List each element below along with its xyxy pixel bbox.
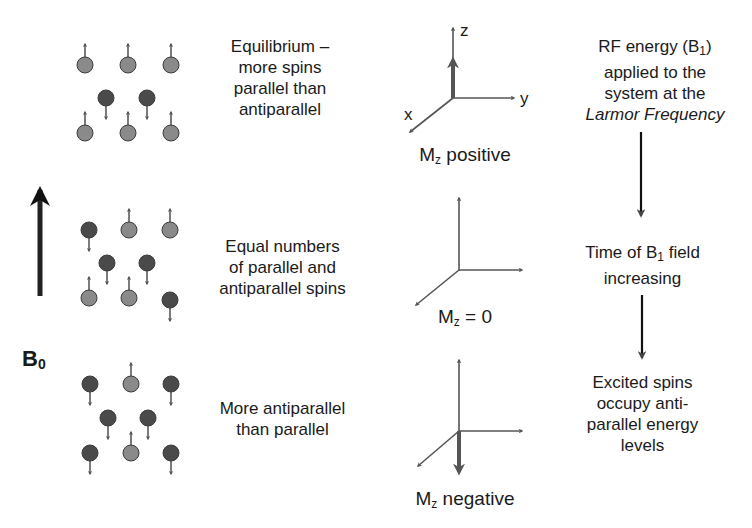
mz-zero-label: Mz = 0	[395, 306, 535, 333]
parallel-spin-icon	[123, 363, 139, 392]
antiparallel-spin-icon	[82, 376, 98, 405]
parallel-spin-icon	[163, 44, 179, 73]
parallel-spin-icon	[120, 44, 136, 73]
antiparallel-spin-icon	[139, 255, 155, 284]
antiparallel-spin-icon	[139, 90, 155, 119]
parallel-spin-icon	[77, 112, 93, 141]
antiparallel-spin-icon	[100, 410, 116, 439]
row1-description: Equilibrium –more spinsparallel thananti…	[205, 36, 355, 120]
parallel-spin-icon	[121, 277, 137, 306]
axis-x-label: x	[404, 104, 413, 125]
spins-layer	[77, 44, 179, 474]
axis-y-label: y	[520, 88, 529, 109]
axes-mz-negative	[418, 360, 522, 472]
process-step-rf-energy: RF energy (B1) applied to the system at …	[560, 36, 750, 125]
parallel-spin-icon	[163, 112, 179, 141]
antiparallel-spin-icon	[81, 222, 97, 251]
axes-mz-positive	[410, 28, 514, 132]
antiparallel-spin-icon	[82, 445, 98, 474]
row2-description: Equal numbersof parallel andantiparallel…	[195, 236, 370, 299]
antiparallel-spin-icon	[162, 292, 178, 321]
process-step-excited: Excited spins occupy anti- parallel ener…	[560, 372, 725, 456]
antiparallel-spin-icon	[140, 410, 156, 439]
antiparallel-spin-icon	[99, 255, 115, 284]
parallel-spin-icon	[77, 44, 93, 73]
parallel-spin-icon	[120, 112, 136, 141]
antiparallel-spin-icon	[98, 90, 114, 119]
parallel-spin-icon	[81, 277, 97, 306]
antiparallel-spin-icon	[163, 445, 179, 474]
parallel-spin-icon	[123, 432, 139, 461]
axis-z-label: z	[460, 20, 469, 41]
mz-positive-label: Mz positive	[395, 144, 535, 171]
parallel-spin-icon	[121, 209, 137, 238]
b0-label: B0	[22, 348, 46, 375]
parallel-spin-icon	[162, 209, 178, 238]
process-step-time: Time of B1 field increasing	[560, 242, 725, 289]
axes-mz-zero	[416, 198, 522, 305]
mri-spin-diagram: B0 Equilibrium –more spinsparallel thana…	[0, 0, 752, 528]
mz-negative-label: Mz negative	[390, 488, 540, 515]
antiparallel-spin-icon	[163, 376, 179, 405]
row3-description: More antiparallelthan parallel	[195, 398, 370, 440]
